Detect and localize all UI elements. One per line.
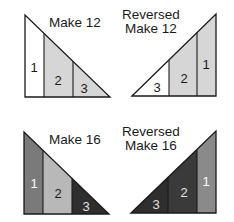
- title-line: Make 16: [122, 139, 180, 153]
- piece-number: 2: [180, 71, 187, 86]
- piece-1: [25, 15, 44, 97]
- piece-number: 2: [54, 73, 61, 88]
- piece-number: 1: [30, 176, 37, 191]
- title-line: Make 12: [122, 22, 180, 36]
- title-line: Make 12: [49, 15, 101, 30]
- piece-number: 2: [180, 185, 187, 200]
- make-12-title: Make 12: [49, 16, 101, 30]
- piece-number: 1: [202, 57, 209, 72]
- piece-1: [197, 14, 216, 96]
- piece-2: [43, 150, 72, 214]
- triangle-piecing-diagram: 1 2 3 3 2 1 1 2 3: [0, 0, 234, 222]
- piece-number: 1: [202, 174, 209, 189]
- title-line: Reversed: [122, 8, 180, 22]
- piece-2: [168, 150, 197, 213]
- piece-2: [169, 33, 197, 96]
- title-line: Reversed: [122, 125, 180, 139]
- piece-number: 3: [82, 199, 89, 214]
- piece-number: 3: [153, 80, 160, 95]
- piece-number: 3: [152, 197, 159, 212]
- make-16-title: Make 16: [49, 133, 101, 147]
- diagram-canvas: 1 2 3 3 2 1 1 2 3: [0, 0, 234, 222]
- title-line: Make 16: [49, 132, 101, 147]
- piece-1: [197, 131, 216, 213]
- reversed-make-16-title: Reversed Make 16: [122, 125, 180, 153]
- reversed-make-12-title: Reversed Make 12: [122, 8, 180, 36]
- piece-number: 2: [54, 186, 61, 201]
- piece-number: 3: [80, 81, 87, 96]
- piece-number: 1: [30, 60, 37, 75]
- piece-1: [24, 132, 43, 214]
